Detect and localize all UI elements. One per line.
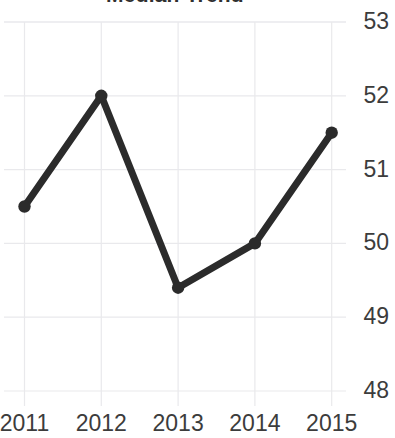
y-axis-tick-label: 50 bbox=[347, 231, 389, 254]
x-axis-tick-label: 2014 bbox=[229, 412, 280, 435]
line-chart: Median Trend 484950515253 20112012201320… bbox=[0, 0, 395, 438]
x-axis-tick-label: 2013 bbox=[153, 412, 204, 435]
data-point bbox=[95, 90, 107, 102]
x-axis-tick-label: 2012 bbox=[76, 412, 127, 435]
plot-svg bbox=[0, 0, 350, 438]
data-point bbox=[249, 237, 261, 249]
horizontal-gridlines bbox=[4, 22, 346, 391]
data-point bbox=[18, 200, 30, 212]
x-axis-tick-label: 2011 bbox=[0, 412, 49, 435]
data-point bbox=[326, 127, 338, 139]
vertical-gridlines bbox=[25, 22, 332, 406]
y-axis-tick-label: 52 bbox=[347, 84, 389, 107]
plot-area bbox=[0, 0, 350, 438]
y-axis-tick-label: 49 bbox=[347, 305, 389, 328]
y-axis-tick-label: 51 bbox=[347, 158, 389, 181]
y-axis-tick-label: 48 bbox=[347, 379, 389, 402]
data-point bbox=[172, 281, 184, 293]
y-axis-tick-label: 53 bbox=[347, 10, 389, 33]
x-axis-tick-label: 2015 bbox=[306, 412, 357, 435]
